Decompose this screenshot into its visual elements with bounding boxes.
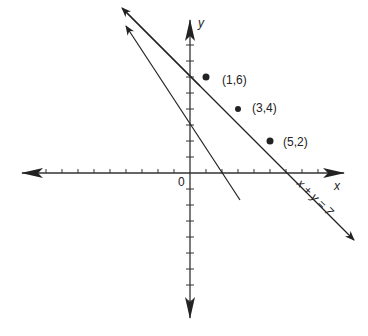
- point-1-6: [203, 74, 210, 81]
- point-5-2: [267, 138, 274, 145]
- y-axis-label: y: [197, 16, 205, 30]
- equation-label: x + y = 7: [293, 176, 337, 220]
- point-3-4: [235, 106, 241, 112]
- label-point-3-4: (3,4): [252, 101, 277, 115]
- x-axis: [22, 169, 344, 173]
- label-point-5-2: (5,2): [283, 135, 308, 149]
- label-point-1-6: (1,6): [222, 73, 247, 87]
- line-x-plus-y-eq-7: [126, 26, 240, 200]
- x-axis-label: x: [333, 179, 341, 193]
- origin-label: 0: [178, 175, 185, 189]
- coordinate-plane: (1,6) (3,4) (5,2) y x 0 x + y = 7: [0, 0, 368, 336]
- y-axis: [186, 20, 194, 318]
